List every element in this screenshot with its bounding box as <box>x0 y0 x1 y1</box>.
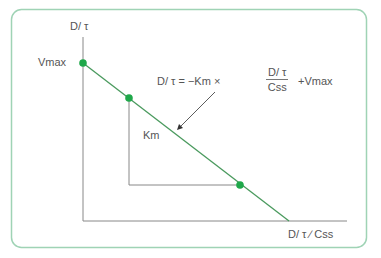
x-axis-label: D/ τ ∕ Css <box>288 229 333 240</box>
data-point-2 <box>236 181 244 189</box>
vmax-label: Vmax <box>38 57 66 68</box>
km-label: Km <box>143 130 160 141</box>
diagram-canvas <box>0 0 381 258</box>
equation-fraction: D/ τ Css <box>266 66 288 93</box>
fraction-denominator: Css <box>268 80 287 93</box>
equation-rhs: +Vmax <box>298 76 333 87</box>
equation-pointer-line <box>180 92 215 127</box>
equation-lhs: D/ τ = −Km × <box>157 76 220 87</box>
data-point-1 <box>125 94 133 102</box>
vmax-point <box>79 59 87 67</box>
y-axis-label: D/ τ <box>70 21 88 32</box>
frame-border <box>12 10 367 248</box>
fraction-numerator: D/ τ <box>266 66 288 80</box>
